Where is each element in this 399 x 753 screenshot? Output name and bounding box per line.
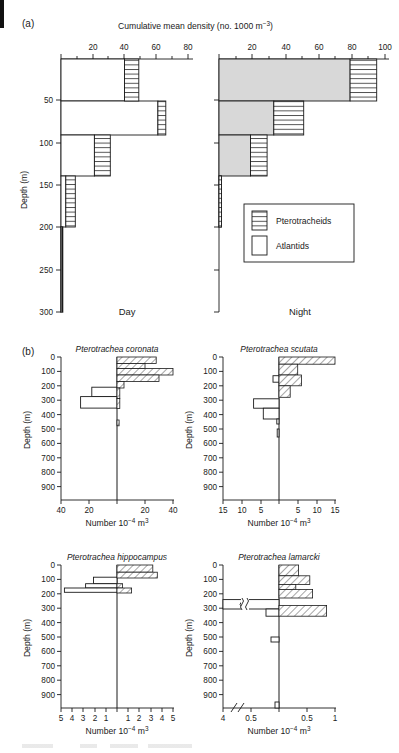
- scutata-day-bar: [263, 408, 279, 419]
- scutata-day-bar: [277, 419, 279, 424]
- night-xtick-20: 20: [247, 43, 257, 52]
- hippocampus-xtick: 3: [149, 714, 154, 723]
- depth-tick-150: 150: [39, 181, 53, 190]
- hippocampus-day-bar: [86, 584, 117, 588]
- day-xtick-20: 20: [88, 43, 98, 52]
- coronata-xtick: 40: [168, 506, 178, 515]
- depth-tick-300: 300: [39, 308, 53, 317]
- day-pterotracheid-bar: [94, 135, 110, 176]
- coronata-night-bar: [117, 382, 124, 389]
- coronata-night-bar: [117, 357, 156, 364]
- chart-coronata: Pterotrachea coronata 0 100 200 300: [22, 344, 178, 528]
- coronata-ytick: 200: [41, 382, 55, 391]
- lamarcki-ytick: 400: [203, 619, 217, 628]
- night-atlantid-bar: [219, 101, 274, 135]
- chart-hippocampus: Pterotrachea hippocampus 0 100 200 300: [22, 552, 176, 736]
- night-atlantid-bar: [219, 59, 350, 101]
- night-xtick-40: 40: [281, 43, 291, 52]
- scutata-day-bar: [273, 376, 279, 383]
- scutata-xtick: 15: [218, 506, 228, 515]
- night-panel-label: Night: [289, 306, 311, 317]
- lamarcki-day-bar-broken: [223, 600, 279, 609]
- scutata-xtick: 5: [296, 506, 301, 515]
- depth-tick-100: 100: [39, 139, 53, 148]
- day-atlantid-bar: [61, 59, 125, 101]
- panel-b-label: (b): [22, 346, 34, 357]
- legend: Pterotracheids Atlantids: [244, 204, 354, 262]
- scutata-day-bar: [277, 429, 279, 437]
- hippocampus-ytick: 600: [41, 647, 55, 656]
- lamarcki-day-bar: [275, 702, 279, 708]
- hippocampus-xtick: 4: [70, 714, 75, 723]
- night-xtick-80: 80: [347, 43, 357, 52]
- scutata-night-bar: [279, 364, 298, 375]
- scutata-ytick: 600: [203, 439, 217, 448]
- hippocampus-xtick: 5: [59, 714, 64, 723]
- coronata-day-bar: [81, 397, 117, 409]
- day-atlantid-bar: [61, 135, 94, 176]
- day-xtick-60: 60: [151, 43, 161, 52]
- coronata-night-bar: [117, 399, 120, 409]
- night-pterotracheid-bar: [350, 59, 377, 101]
- coronata-ytick: 300: [41, 396, 55, 405]
- panel-b: (b) Pterotrachea coronata 0 100: [0, 330, 399, 750]
- night-pterotracheid-bar: [274, 101, 304, 135]
- hippocampus-ytick: 300: [41, 604, 55, 613]
- hippocampus-xtick: 2: [137, 714, 142, 723]
- day-pterotracheid-bar: [66, 176, 76, 227]
- day-pterotracheid-bar: [125, 59, 139, 101]
- figure-root: (a) Cumulative mean density (no. 1000 m−…: [0, 0, 399, 753]
- coronata-night-bar: [117, 420, 119, 426]
- coronata-night-bar: [117, 375, 159, 382]
- depth-tick-250: 250: [39, 266, 53, 275]
- coronata-xtick: 40: [56, 506, 66, 515]
- coronata-xtick: 20: [140, 506, 150, 515]
- day-atlantid-bar: [61, 176, 66, 227]
- panel-a-depth-axis-label: Depth (m): [19, 171, 29, 209]
- day-atlantid-bar: [61, 101, 158, 135]
- day-xtick-80: 80: [183, 43, 193, 52]
- hippocampus-ytick: 200: [41, 590, 55, 599]
- lamarcki-ytick: 200: [203, 590, 217, 599]
- lamarcki-ytick: 0: [212, 561, 217, 570]
- scutata-depth-axis-label: Depth (m): [184, 411, 194, 449]
- scutata-ytick: 500: [203, 425, 217, 434]
- chart-title-scutata: Pterotrachea scutata: [240, 344, 318, 354]
- hippocampus-xtick: 4: [160, 714, 165, 723]
- hippocampus-ytick: 0: [50, 561, 55, 570]
- coronata-day-bar: [92, 387, 117, 396]
- scutata-xtick: 15: [330, 506, 340, 515]
- lamarcki-ytick: 700: [203, 662, 217, 671]
- coronata-xaxis-label: Number 10−4 m3: [86, 517, 149, 528]
- coronata-ytick: 100: [41, 367, 55, 376]
- lamarcki-night-bar: [279, 576, 310, 585]
- hippocampus-xtick: 1: [104, 714, 109, 723]
- depth-tick-50: 50: [44, 96, 54, 105]
- night-pterotracheid-bar: [251, 135, 268, 176]
- lamarcki-day-bar: [271, 637, 279, 642]
- hippocampus-ytick: 500: [41, 633, 55, 642]
- coronata-ytick: 400: [41, 411, 55, 420]
- coronata-depth-axis-label: Depth (m): [22, 411, 32, 449]
- day-chart: 20 40 60 80 50 100 150 200 250 300 Depth…: [19, 43, 193, 317]
- lamarcki-ytick: 100: [203, 575, 217, 584]
- lamarcki-xtick: 4: [221, 714, 226, 723]
- hippocampus-xtick: 1: [126, 714, 131, 723]
- hippocampus-day-bar: [94, 577, 118, 584]
- scutata-ytick: 700: [203, 454, 217, 463]
- hippocampus-ytick: 700: [41, 662, 55, 671]
- lamarcki-night-bar: [279, 605, 327, 616]
- scutata-ytick: 300: [203, 396, 217, 405]
- hippocampus-ytick: 800: [41, 676, 55, 685]
- panel-a: (a) Cumulative mean density (no. 1000 m−…: [0, 0, 399, 330]
- xaxis-break-icon: [231, 703, 244, 712]
- lamarcki-xaxis-label: Number 10−4 m3: [248, 725, 311, 736]
- chart-title-coronata: Pterotrachea coronata: [76, 344, 159, 354]
- scutata-night-bar: [279, 357, 335, 364]
- coronata-night-bar: [117, 388, 120, 399]
- scutata-night-bar: [279, 386, 290, 398]
- coronata-xtick: 20: [84, 506, 94, 515]
- figure-caption-fragment: [22, 744, 192, 748]
- chart-title-lamarcki: Pterotrachea lamarcki: [238, 552, 321, 562]
- scutata-xtick: 5: [259, 506, 264, 515]
